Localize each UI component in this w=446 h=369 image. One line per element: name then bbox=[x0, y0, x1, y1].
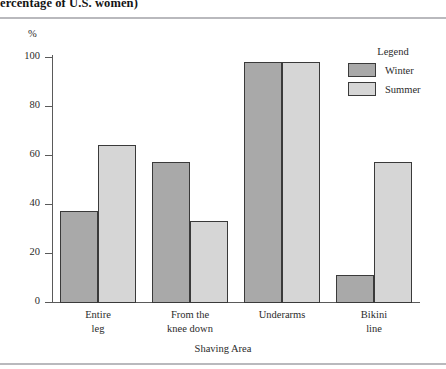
y-axis-unit-label: % bbox=[28, 28, 37, 39]
legend: Legend WinterSummer bbox=[348, 46, 444, 101]
bar-winter-3 bbox=[336, 275, 374, 303]
bar-summer-2 bbox=[282, 62, 320, 303]
y-axis-tick bbox=[45, 155, 52, 156]
legend-title: Legend bbox=[348, 46, 444, 57]
x-axis-tick-label-line: From the bbox=[144, 308, 236, 322]
legend-item-summer[interactable]: Summer bbox=[348, 82, 444, 96]
legend-label-summer: Summer bbox=[385, 84, 421, 95]
y-axis-tick bbox=[45, 204, 52, 205]
x-axis-tick-label-line: Bikini bbox=[328, 308, 420, 322]
bar-summer-1 bbox=[190, 221, 228, 303]
x-axis-title: Shaving Area bbox=[0, 343, 446, 354]
bar-chart: % 020406080100 EntirelegFrom theknee dow… bbox=[0, 18, 446, 363]
y-axis-tick-label: 40 bbox=[0, 198, 40, 209]
x-axis-tick-label-line: line bbox=[328, 322, 420, 336]
bar-summer-0 bbox=[98, 145, 136, 303]
legend-swatch-summer bbox=[348, 82, 376, 96]
bar-winter-0 bbox=[60, 211, 98, 303]
legend-label-winter: Winter bbox=[385, 65, 414, 76]
y-axis-tick bbox=[45, 106, 52, 107]
y-axis-line bbox=[52, 55, 53, 303]
legend-entries: WinterSummer bbox=[348, 63, 444, 96]
legend-item-winter[interactable]: Winter bbox=[348, 63, 444, 77]
bar-winter-2 bbox=[244, 62, 282, 303]
y-axis-tick bbox=[45, 253, 52, 254]
y-axis-tick bbox=[45, 57, 52, 58]
bottom-divider bbox=[0, 363, 446, 365]
x-axis-tick-label-line: Entire bbox=[52, 308, 144, 322]
x-axis-tick-label: From theknee down bbox=[144, 308, 236, 336]
y-axis-tick-label: 20 bbox=[0, 247, 40, 258]
y-axis-tick-label: 60 bbox=[0, 149, 40, 160]
bar-winter-1 bbox=[152, 162, 190, 303]
bar-summer-3 bbox=[374, 162, 412, 303]
y-axis-tick-label: 80 bbox=[0, 100, 40, 111]
y-axis-tick-label: 100 bbox=[0, 51, 40, 62]
figure-title: ercentage of U.S. women) bbox=[0, 0, 446, 11]
x-axis-tick-label: Underarms bbox=[236, 308, 328, 322]
y-axis-tick bbox=[45, 302, 52, 303]
x-axis-tick-label-line: leg bbox=[52, 322, 144, 336]
x-axis-tick-label: Entireleg bbox=[52, 308, 144, 336]
x-axis-tick-label-line: Underarms bbox=[236, 308, 328, 322]
x-axis-tick-label-line: knee down bbox=[144, 322, 236, 336]
y-axis-tick-label: 0 bbox=[0, 296, 40, 307]
x-axis-tick-label: Bikiniline bbox=[328, 308, 420, 336]
legend-swatch-winter bbox=[348, 63, 376, 77]
